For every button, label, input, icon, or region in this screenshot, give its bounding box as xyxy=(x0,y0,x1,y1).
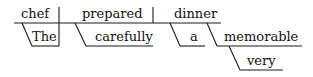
subject-word: chef xyxy=(21,6,50,21)
adjective-modifier-slant xyxy=(229,46,240,70)
adjective-modifier-word: very xyxy=(246,53,276,68)
object-adjective-slant xyxy=(207,23,217,46)
object-article-word: a xyxy=(190,29,198,44)
object-word: dinner xyxy=(174,6,218,21)
verb-word: prepared xyxy=(82,6,143,21)
object-article-slant xyxy=(170,23,180,46)
verb-modifier-word: carefully xyxy=(95,29,153,44)
verb-modifier-slant xyxy=(75,23,86,46)
sentence-diagram: chef prepared dinner The carefully a mem… xyxy=(0,0,313,77)
object-adjective-word: memorable xyxy=(224,29,299,44)
subject-modifier-slant xyxy=(22,23,32,46)
subject-modifier-word: The xyxy=(32,29,57,44)
